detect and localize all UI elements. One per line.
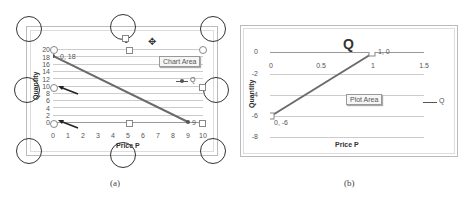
x-tick: 9 xyxy=(183,132,193,139)
y-tick: -6 xyxy=(244,112,258,119)
legend-label: Q xyxy=(439,97,444,104)
y-tick: -8 xyxy=(244,133,258,140)
y-tick: 20 xyxy=(36,46,50,53)
x-tick: 4 xyxy=(108,132,118,139)
plot-handle[interactable] xyxy=(199,46,207,54)
y-tick: -2 xyxy=(244,70,258,77)
data-label-start: 0, 18 xyxy=(60,53,76,60)
tooltip: Chart Area xyxy=(159,56,200,67)
figure-caption: (a) xyxy=(110,178,120,188)
x-tick: 0 xyxy=(266,62,276,69)
plot-handle[interactable] xyxy=(199,120,206,127)
plot-handle[interactable] xyxy=(126,47,133,54)
x-tick: 5 xyxy=(123,132,133,139)
y-tick: 16 xyxy=(36,61,50,68)
resize-handle-top-left[interactable] xyxy=(16,16,42,42)
x-tick: 1 xyxy=(368,62,378,69)
arrow-icon xyxy=(56,84,86,100)
x-tick: 0 xyxy=(48,132,58,139)
resize-handle-top-right[interactable] xyxy=(200,16,226,42)
chart-title[interactable]: Q xyxy=(343,36,354,52)
legend[interactable]: Q xyxy=(423,98,447,106)
y-tick: 2 xyxy=(36,112,50,119)
y-axis-label[interactable]: Quantity xyxy=(248,80,255,108)
x-tick: 10 xyxy=(198,132,208,139)
panel-b: Q 0 -2 -4 -6 -8 0 0.5 1 1.5 0, -6 1, 0 P… xyxy=(234,0,468,200)
x-tick: 2 xyxy=(78,132,88,139)
y-axis-label[interactable]: Quantity xyxy=(32,72,39,100)
tooltip: Plot Area xyxy=(346,94,382,105)
x-tick: 1.5 xyxy=(417,62,431,69)
x-tick: 0.5 xyxy=(314,62,328,69)
data-label-start: 0, -6 xyxy=(274,119,288,126)
x-tick: 8 xyxy=(168,132,178,139)
panel-a: Q 20 18 16 14 12 10 8 6 4 2 0 xyxy=(0,0,234,200)
y-tick: 4 xyxy=(36,105,50,112)
title-handle[interactable] xyxy=(122,35,129,42)
x-tick: 7 xyxy=(153,132,163,139)
x-tick: 6 xyxy=(138,132,148,139)
plot-handle[interactable] xyxy=(126,120,133,127)
resize-handle-bottom-left[interactable] xyxy=(16,138,42,164)
legend-label: Q xyxy=(190,76,195,83)
data-label-end: 1, 0 xyxy=(378,48,390,55)
y-tick: 18 xyxy=(36,54,50,61)
legend[interactable]: Q xyxy=(176,77,200,85)
figure-caption: (b) xyxy=(344,178,355,188)
x-axis-label[interactable]: Price P xyxy=(116,142,140,149)
series-line-q[interactable] xyxy=(270,52,424,122)
plot-handle[interactable] xyxy=(199,84,206,91)
move-cursor-icon: ✥ xyxy=(148,36,156,47)
y-tick: 0 xyxy=(244,48,258,55)
plot-handle[interactable] xyxy=(50,46,58,54)
x-tick: 1 xyxy=(63,132,73,139)
x-tick: 3 xyxy=(93,132,103,139)
data-label-end: 9 xyxy=(192,119,196,126)
resize-handle-middle-right[interactable] xyxy=(203,77,229,103)
y-tick: 0 xyxy=(36,119,50,126)
x-axis-label[interactable]: Price P xyxy=(335,141,359,148)
resize-handle-bottom-right[interactable] xyxy=(200,138,226,164)
